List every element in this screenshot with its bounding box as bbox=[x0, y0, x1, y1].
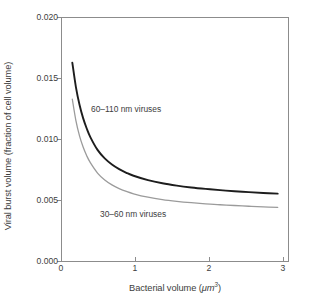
series-annotation-30-60-nm-viruses: 30–60 nm viruses bbox=[100, 209, 166, 219]
axes-frame bbox=[62, 18, 289, 262]
x-tick-label-2: 2 bbox=[199, 263, 219, 273]
y-tick-label-0.005: 0.005 bbox=[22, 195, 58, 205]
chart-figure: Viral burst volume (fraction of cell vol… bbox=[0, 0, 311, 304]
x-tick-label-3: 3 bbox=[273, 263, 293, 273]
x-axis-unit-exponent: 3 bbox=[214, 281, 218, 288]
x-tick-label-1: 1 bbox=[125, 263, 145, 273]
y-tick-label-0.010: 0.010 bbox=[22, 134, 58, 144]
y-tick-label-0.020: 0.020 bbox=[22, 12, 58, 22]
x-axis-ticks bbox=[62, 257, 284, 262]
x-axis-title-text: Bacterial volume (μm3) bbox=[129, 283, 221, 293]
x-tick-label-0: 0 bbox=[51, 263, 71, 273]
y-axis-title: Viral burst volume (fraction of cell vol… bbox=[0, 24, 16, 268]
series-line-60-110-nm-viruses bbox=[72, 63, 277, 194]
x-axis-title: Bacterial volume (μm3) bbox=[61, 281, 289, 293]
data-series-group bbox=[72, 63, 277, 208]
series-annotation-60-110-nm-viruses: 60–110 nm viruses bbox=[91, 104, 161, 114]
y-tick-label-0.015: 0.015 bbox=[22, 73, 58, 83]
x-axis-unit: μm3 bbox=[202, 283, 218, 293]
